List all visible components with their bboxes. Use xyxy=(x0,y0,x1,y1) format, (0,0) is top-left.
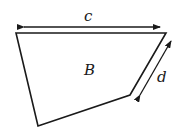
quadrilateral-diagram: B c d xyxy=(0,0,177,134)
shape-b-outline xyxy=(16,33,166,126)
shape-label-b: B xyxy=(83,61,95,79)
dimension-label-c: c xyxy=(84,7,93,25)
dimension-label-d: d xyxy=(157,68,167,86)
